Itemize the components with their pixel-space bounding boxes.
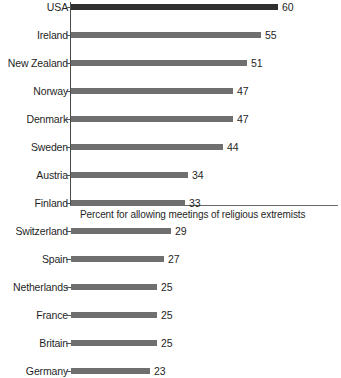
bar: [71, 368, 150, 374]
table-row: Ireland55: [0, 28, 341, 42]
category-label: Switzerland: [0, 226, 68, 237]
bar: [71, 228, 171, 234]
table-row: Finland33: [0, 196, 341, 210]
bar: [71, 312, 157, 318]
table-row: Austria34: [0, 168, 341, 182]
table-row: France25: [0, 308, 341, 322]
bar-value-label: 27: [168, 254, 179, 265]
bar-value-label: 60: [282, 2, 293, 13]
bar: [71, 200, 185, 206]
bar: [71, 88, 233, 94]
table-row: Netherlands25: [0, 280, 341, 294]
category-label: Ireland: [0, 30, 68, 41]
category-label: Austria: [0, 170, 68, 181]
category-label: Denmark: [0, 114, 68, 125]
bar: [71, 284, 157, 290]
bar: [71, 4, 278, 10]
x-axis-caption: Percent for allowing meetings of religio…: [80, 209, 305, 221]
bar-value-label: 29: [175, 226, 186, 237]
bar-value-label: 44: [227, 142, 238, 153]
category-label: Netherlands: [0, 282, 68, 293]
table-row: New Zealand51: [0, 56, 341, 70]
bar-value-label: 51: [251, 58, 262, 69]
table-row: Spain27: [0, 252, 341, 266]
bar-rows: USA60Ireland55New Zealand51Norway47Denma…: [0, 0, 341, 196]
bar: [71, 172, 188, 178]
category-label: Finland: [0, 198, 68, 209]
category-label: Britain: [0, 338, 68, 349]
bar-value-label: 25: [161, 282, 172, 293]
bar-value-label: 23: [154, 366, 165, 377]
table-row: Norway47: [0, 84, 341, 98]
category-label: USA: [0, 2, 68, 13]
table-row: Britain25: [0, 336, 341, 350]
bar: [71, 60, 247, 66]
bar-value-label: 47: [237, 86, 248, 97]
bar: [71, 256, 164, 262]
bar-value-label: 25: [161, 338, 172, 349]
bar: [71, 340, 157, 346]
category-label: Sweden: [0, 142, 68, 153]
table-row: Switzerland29: [0, 224, 341, 238]
category-label: Norway: [0, 86, 68, 97]
table-row: Germany23: [0, 364, 341, 378]
table-row: Denmark47: [0, 112, 341, 126]
bar-value-label: 33: [189, 198, 200, 209]
table-row: Sweden44: [0, 140, 341, 154]
category-label: France: [0, 310, 68, 321]
bar: [71, 116, 233, 122]
bar: [71, 32, 261, 38]
bar-value-label: 25: [161, 310, 172, 321]
bar-value-label: 47: [237, 114, 248, 125]
category-label: Spain: [0, 254, 68, 265]
category-label: Germany: [0, 366, 68, 377]
bar-value-label: 34: [192, 170, 203, 181]
category-label: New Zealand: [0, 58, 68, 69]
bar-value-label: 55: [265, 30, 276, 41]
bar: [71, 144, 223, 150]
table-row: USA60: [0, 0, 341, 14]
